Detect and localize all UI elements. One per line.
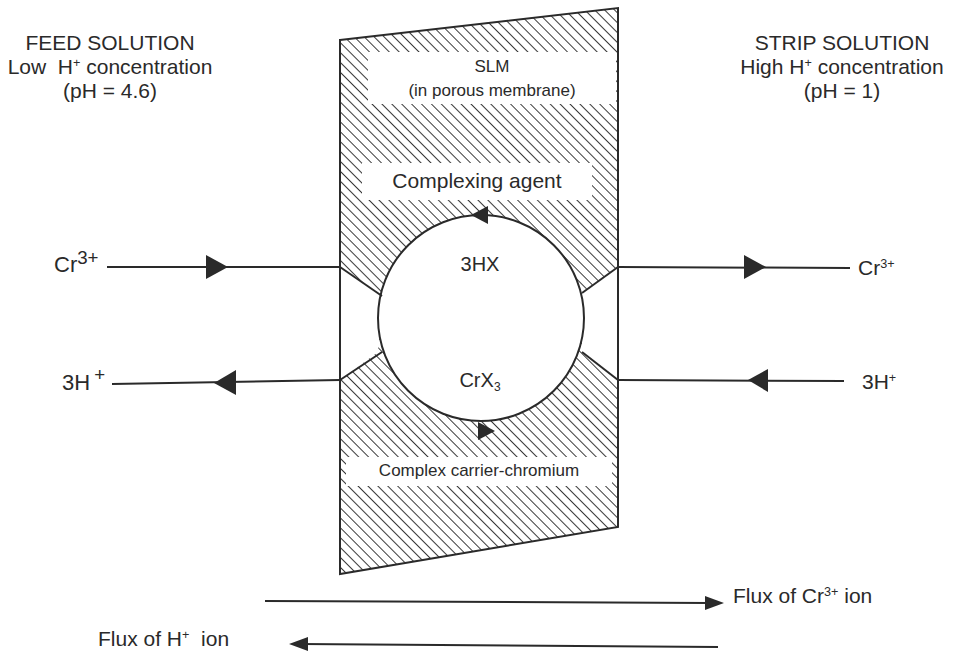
slm-subtitle: (in porous membrane)	[368, 82, 616, 99]
strip-conc-prefix: High H	[740, 55, 804, 78]
right-cr-sup: 3+	[880, 257, 894, 271]
slm-title: SLM	[368, 58, 616, 75]
cr-flux-label: Flux of Cr3+ ion	[733, 585, 872, 606]
cr-flux-arrow-icon	[705, 596, 724, 610]
feed-title: FEED SOLUTION	[0, 32, 220, 53]
feed-conc-sup: +	[73, 56, 80, 70]
h-flux-arrow-icon	[289, 637, 308, 651]
left-h-base: 3H	[62, 370, 90, 395]
complex-carrier-label: Complex carrier-chromium	[346, 462, 612, 479]
feed-ph: (pH = 4.6)	[0, 80, 220, 101]
cr-flux-suffix: ion	[838, 584, 872, 607]
h-flux-line	[300, 644, 718, 647]
right-h-label: 3H+	[862, 371, 896, 392]
crx3-base: CrX	[459, 369, 493, 391]
feed-conc-suffix: concentration	[80, 55, 212, 78]
h-flux-sup: +	[182, 628, 189, 642]
left-cr-label: Cr3+	[54, 254, 99, 276]
right-cr-label: Cr3+	[858, 257, 895, 278]
h-in-arrow-icon	[748, 369, 768, 392]
left-cr-sup: 3+	[77, 247, 98, 268]
strip-ph: (pH = 1)	[712, 80, 972, 101]
cr-flux-line	[265, 601, 710, 603]
crx3-sub: 3	[494, 380, 501, 394]
strip-conc-suffix: concentration	[812, 55, 944, 78]
left-h-sup: +	[94, 364, 105, 385]
feed-concentration: Low H+ concentration	[0, 56, 220, 77]
h-flux-suffix: ion	[189, 627, 229, 650]
species-crx3: CrX3	[430, 370, 530, 390]
feed-conc-prefix: Low H	[8, 55, 73, 78]
complexing-agent-label: Complexing agent	[362, 170, 592, 191]
cr-flux-sup: 3+	[824, 585, 838, 599]
strip-solution-header: STRIP SOLUTION High H+ concentration (pH…	[712, 32, 972, 101]
species-3hx: 3HX	[430, 254, 530, 274]
cr-out-arrow-icon	[744, 255, 766, 279]
left-h-label: 3H+	[62, 372, 105, 394]
strip-title: STRIP SOLUTION	[712, 32, 972, 53]
cr-flux-prefix: Flux of Cr	[733, 584, 824, 607]
right-cr-base: Cr	[858, 256, 880, 279]
right-h-base: 3H	[862, 370, 889, 393]
strip-concentration: High H+ concentration	[712, 56, 972, 77]
h-out-arrow-icon	[214, 370, 236, 395]
right-transport-lines	[618, 267, 850, 381]
left-cr-base: Cr	[54, 252, 77, 277]
cr-in-arrow-icon	[206, 255, 228, 279]
feed-solution-header: FEED SOLUTION Low H+ concentration (pH =…	[0, 32, 220, 101]
strip-conc-sup: +	[804, 56, 811, 70]
h-flux-label: Flux of H+ ion	[98, 628, 229, 649]
left-transport-lines	[107, 267, 340, 384]
h-flux-prefix: Flux of H	[98, 627, 182, 650]
right-h-sup: +	[889, 371, 896, 385]
